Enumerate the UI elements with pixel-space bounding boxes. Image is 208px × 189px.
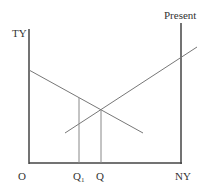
present-label: Present bbox=[164, 9, 196, 21]
diagram-canvas: TY Present O Q1 Q NY bbox=[0, 0, 208, 189]
q1-label-subscript: 1 bbox=[81, 176, 85, 184]
q-label: Q bbox=[96, 170, 104, 182]
upward-sloping-line bbox=[65, 47, 197, 133]
y-axis-label: TY bbox=[12, 27, 27, 39]
q1-label-main: Q bbox=[73, 170, 81, 182]
downward-sloping-line bbox=[29, 70, 143, 133]
ny-label: NY bbox=[175, 170, 191, 182]
origin-label: O bbox=[18, 170, 26, 182]
q1-label: Q1 bbox=[73, 170, 85, 184]
